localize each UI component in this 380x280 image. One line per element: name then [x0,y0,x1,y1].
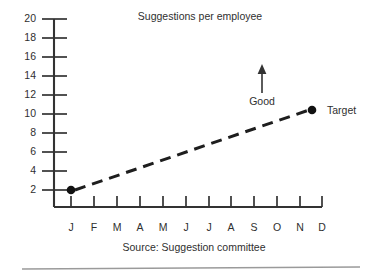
data-point-marker-dec [308,106,317,115]
y-axis-group: 20 18 16 14 12 10 8 6 4 2 [24,12,67,207]
suggestions-per-employee-chart: Suggestions per employee 20 18 16 14 12 … [0,0,380,280]
chart-title-group: Suggestions per employee [138,10,262,22]
y-tick-label-18: 18 [24,31,36,43]
y-tick-label-12: 12 [24,88,36,100]
y-tick-label-8: 8 [30,126,36,138]
y-tick-label-4: 4 [30,164,36,176]
good-direction-annotation: Good [249,64,275,107]
x-tick-label-jan: J [68,221,73,233]
data-point-marker-jan [67,186,76,195]
x-tick-label-jun: J [183,221,188,233]
y-tick-label-16: 16 [24,50,36,62]
up-arrow-icon [258,64,267,74]
x-tick-label-oct: O [273,221,281,233]
y-tick-label-6: 6 [30,145,36,157]
source-caption: Source: Suggestion committee [123,241,266,253]
target-trend-dashed-line [75,110,309,190]
y-tick-label-20: 20 [24,12,36,24]
x-tick-label-feb: F [91,221,97,233]
x-tick-label-mar: M [113,221,122,233]
x-tick-label-nov: N [296,221,304,233]
chart-title: Suggestions per employee [138,10,262,22]
good-annotation-label: Good [249,95,275,107]
x-tick-label-sep: S [250,221,257,233]
x-tick-label-apr: A [136,221,143,233]
target-series-label: Target [327,104,356,116]
footer-divider [22,267,360,269]
y-tick-label-10: 10 [24,107,36,119]
x-tick-label-jul: J [206,221,211,233]
data-series-target: Target [67,104,357,194]
x-axis-group: J F M A M J J A S O N D [54,196,326,233]
y-tick-label-14: 14 [24,69,36,81]
x-tick-label-dec: D [318,221,326,233]
x-tick-label-aug: A [227,221,234,233]
x-tick-label-may: M [159,221,168,233]
chart-page: Suggestions per employee 20 18 16 14 12 … [0,0,380,280]
caption-group: Source: Suggestion committee [123,241,266,253]
y-tick-label-2: 2 [30,183,36,195]
